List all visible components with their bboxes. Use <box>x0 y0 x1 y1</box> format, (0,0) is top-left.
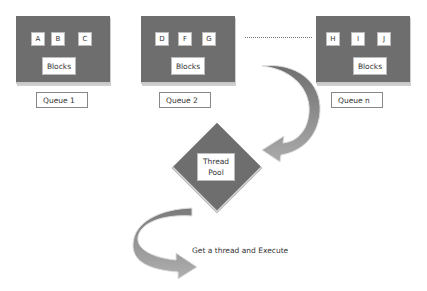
curved-arrow-to-pool-icon <box>262 65 320 162</box>
thread-pool-label: Thread Pool <box>197 153 235 181</box>
curved-arrow-execute-icon <box>133 208 197 279</box>
thread-pool-line2: Pool <box>208 167 224 178</box>
execute-caption: Get a thread and Execute <box>192 246 288 255</box>
thread-pool-line1: Thread <box>203 156 229 167</box>
